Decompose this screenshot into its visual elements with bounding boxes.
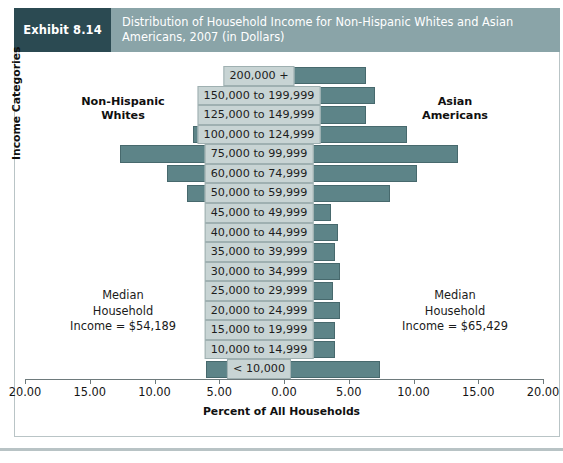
exhibit-page: Exhibit 8.14 Distribution of Household I… <box>0 0 563 463</box>
x-tick-label: 10.00 <box>138 385 171 399</box>
median-left-line-1: Median <box>38 288 208 304</box>
category-label: 100,000 to 124,999 <box>198 125 321 145</box>
category-label: 20,000 to 24,999 <box>205 301 314 321</box>
median-right-line-3: Income = $65,429 <box>370 319 540 335</box>
x-tick-label: 20.00 <box>9 385 42 399</box>
category-label: 15,000 to 19,999 <box>205 320 314 340</box>
category-label: 35,000 to 39,999 <box>205 242 314 262</box>
group-label-right-line-2: Americans <box>395 109 515 123</box>
x-tick-label: 0.00 <box>271 385 296 399</box>
x-tick <box>349 379 350 384</box>
chart-row: 75,000 to 99,999 <box>25 144 543 164</box>
chart-row: 10,000 to 14,999 <box>25 340 543 360</box>
median-right-line-2: Household <box>370 304 540 320</box>
page-bottom-rule <box>0 448 563 451</box>
group-label-right-line-1: Asian <box>395 95 515 109</box>
chart-row: 45,000 to 49,999 <box>25 203 543 223</box>
category-label: 60,000 to 74,999 <box>205 164 314 184</box>
group-label-left-line-1: Non-Hispanic <box>63 95 183 109</box>
chart-row: 60,000 to 74,999 <box>25 164 543 184</box>
exhibit-title: Distribution of Household Income for Non… <box>111 8 560 52</box>
group-label-non-hispanic-whites: Non-Hispanic Whites <box>63 95 183 123</box>
chart-row: 100,000 to 124,999 <box>25 125 543 145</box>
chart-row: 40,000 to 44,999 <box>25 223 543 243</box>
category-label: 25,000 to 29,999 <box>205 281 314 301</box>
category-label: 75,000 to 99,999 <box>205 144 314 164</box>
x-tick-label: 5.00 <box>336 385 361 399</box>
x-tick-label: 10.00 <box>397 385 430 399</box>
median-right-line-1: Median <box>370 288 540 304</box>
exhibit-header: Exhibit 8.14 Distribution of Household I… <box>14 8 560 52</box>
x-tick <box>414 379 415 384</box>
y-axis-title: Income Categories <box>10 47 23 160</box>
x-tick <box>543 379 544 384</box>
group-label-left-line-2: Whites <box>63 109 183 123</box>
exhibit-title-line-2: Americans, 2007 (in Dollars) <box>122 30 550 45</box>
category-label: 50,000 to 59,999 <box>205 183 314 203</box>
x-tick-label: 15.00 <box>462 385 495 399</box>
x-tick <box>25 379 26 384</box>
chart-row: 30,000 to 34,999 <box>25 262 543 282</box>
category-label: 40,000 to 44,999 <box>205 223 314 243</box>
category-label: 30,000 to 34,999 <box>205 262 314 282</box>
x-tick <box>219 379 220 384</box>
x-tick <box>155 379 156 384</box>
median-left-line-3: Income = $54,189 <box>38 319 208 335</box>
x-tick <box>90 379 91 384</box>
median-income-note-left: Median Household Income = $54,189 <box>38 288 208 335</box>
x-tick-label: 5.00 <box>207 385 232 399</box>
group-label-asian-americans: Asian Americans <box>395 95 515 123</box>
category-label: 125,000 to 149,999 <box>198 105 321 125</box>
x-tick <box>478 379 479 384</box>
chart-row: < 10,000 <box>25 359 543 379</box>
median-left-line-2: Household <box>38 304 208 320</box>
bar-right-15 <box>284 361 380 378</box>
x-tick-label: 15.00 <box>73 385 106 399</box>
x-tick-label: 20.00 <box>527 385 560 399</box>
exhibit-title-line-1: Distribution of Household Income for Non… <box>122 15 550 30</box>
category-label: < 10,000 <box>227 359 291 379</box>
x-axis-title: Percent of All Households <box>0 405 563 418</box>
bar-right-0 <box>284 67 366 84</box>
category-label: 10,000 to 14,999 <box>205 340 314 360</box>
chart-row: 50,000 to 59,999 <box>25 183 543 203</box>
category-label: 150,000 to 199,999 <box>198 86 321 106</box>
chart-row: 200,000 + <box>25 66 543 86</box>
category-label: 45,000 to 49,999 <box>205 203 314 223</box>
median-income-note-right: Median Household Income = $65,429 <box>370 288 540 335</box>
chart-row: 35,000 to 39,999 <box>25 242 543 262</box>
exhibit-number-tag: Exhibit 8.14 <box>14 8 111 52</box>
x-tick <box>284 379 285 384</box>
category-label: 200,000 + <box>223 66 294 86</box>
